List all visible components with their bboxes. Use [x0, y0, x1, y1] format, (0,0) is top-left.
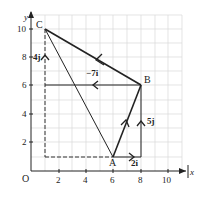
label-4j: 4j: [33, 52, 41, 62]
x-axis-arrow-icon: [179, 168, 186, 174]
grid: [31, 15, 182, 171]
y-tick-8: 8: [22, 52, 27, 62]
y-tick-6: 6: [22, 80, 27, 90]
ticks: [29, 29, 168, 173]
x-tick-4: 4: [83, 175, 88, 185]
point-a-label: A: [109, 157, 117, 168]
y-tick-10: 10: [17, 24, 27, 34]
label-2i: 2i: [131, 158, 139, 168]
y-axis-arrow-icon: [28, 11, 34, 18]
y-tick-4: 4: [22, 109, 27, 119]
label-5j: 5j: [147, 116, 155, 126]
x-axis-label: x: [189, 167, 194, 177]
origin-label: O: [22, 173, 29, 184]
point-c-label: C: [36, 19, 43, 30]
x-tick-10: 10: [162, 175, 172, 185]
y-tick-2: 2: [22, 137, 27, 147]
x-tick-2: 2: [56, 175, 61, 185]
label-minus-7i: −7i: [86, 68, 99, 78]
x-tick-6: 6: [110, 175, 115, 185]
point-b-label: B: [144, 74, 151, 85]
vector-diagram: O 2 4 6 8 10 2 4 6 8 10 y x C B A 2i 5j …: [0, 0, 199, 197]
x-tick-8: 8: [138, 175, 143, 185]
y-axis-label: y: [23, 12, 28, 22]
triangle: [45, 29, 141, 157]
axes: [31, 12, 188, 178]
